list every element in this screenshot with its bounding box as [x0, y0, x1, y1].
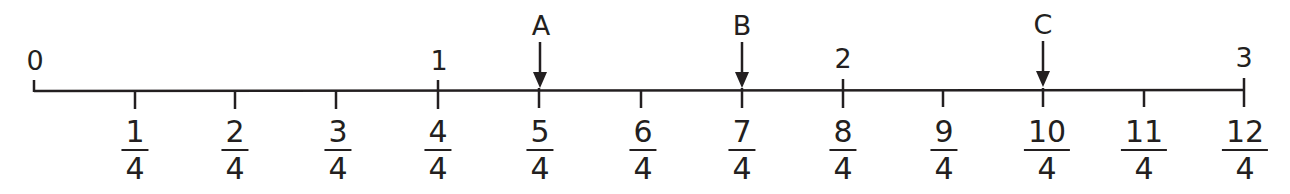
fraction-denominator: 4 [1024, 151, 1070, 184]
fraction-label-4-4: 4 4 [424, 117, 451, 184]
fraction-label-3-4: 3 4 [324, 117, 351, 184]
fraction-label-7-4: 7 4 [728, 117, 755, 184]
fraction-label-9-4: 9 4 [930, 117, 957, 184]
fraction-denominator: 4 [121, 151, 148, 184]
fraction-numerator: 4 [424, 117, 451, 151]
fraction-denominator: 4 [1121, 151, 1167, 184]
marker-label-c: C [1034, 11, 1053, 38]
fraction-denominator: 4 [526, 151, 553, 184]
fraction-label-11-4: 11 4 [1121, 117, 1167, 184]
arrow-a-head-icon [533, 72, 547, 88]
fraction-numerator: 5 [526, 117, 553, 151]
fraction-denominator: 4 [1222, 151, 1268, 184]
arrow-b-head-icon [735, 72, 749, 88]
fraction-numerator: 12 [1222, 117, 1268, 151]
fraction-label-5-4: 5 4 [526, 117, 553, 184]
marker-label-b: B [733, 12, 752, 39]
fraction-numerator: 8 [829, 117, 856, 151]
whole-label-2: 2 [834, 45, 851, 72]
fraction-numerator: 9 [930, 117, 957, 151]
fraction-numerator: 10 [1024, 117, 1070, 151]
number-line-diagram: 0 1 2 3 A B C 1 4 2 4 3 4 4 4 5 4 6 4 7 … [0, 0, 1290, 194]
fraction-denominator: 4 [629, 151, 656, 184]
axis-line [34, 90, 1244, 91]
fraction-denominator: 4 [221, 151, 248, 184]
fraction-label-12-4: 12 4 [1222, 117, 1268, 184]
fraction-denominator: 4 [930, 151, 957, 184]
fraction-label-1-4: 1 4 [121, 117, 148, 184]
fraction-label-10-4: 10 4 [1024, 117, 1070, 184]
fraction-label-8-4: 8 4 [829, 117, 856, 184]
fraction-numerator: 2 [221, 117, 248, 151]
marker-label-a: A [532, 12, 550, 39]
fraction-label-6-4: 6 4 [629, 117, 656, 184]
fraction-numerator: 1 [121, 117, 148, 151]
fraction-numerator: 11 [1121, 117, 1167, 151]
fraction-numerator: 7 [728, 117, 755, 151]
fraction-denominator: 4 [728, 151, 755, 184]
whole-label-1: 1 [430, 47, 447, 74]
whole-label-0: 0 [26, 47, 43, 74]
fraction-denominator: 4 [829, 151, 856, 184]
whole-label-3: 3 [1235, 44, 1252, 71]
fraction-numerator: 3 [324, 117, 351, 151]
fraction-label-2-4: 2 4 [221, 117, 248, 184]
arrow-c-head-icon [1036, 71, 1050, 87]
fraction-denominator: 4 [424, 151, 451, 184]
fraction-denominator: 4 [324, 151, 351, 184]
fraction-numerator: 6 [629, 117, 656, 151]
